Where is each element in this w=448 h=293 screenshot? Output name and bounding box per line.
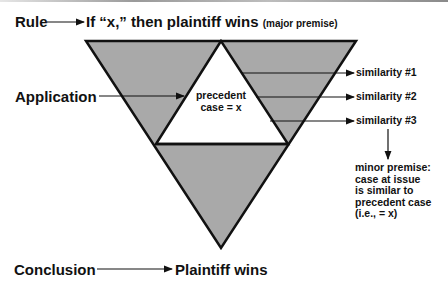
- conclusion-label: Conclusion: [14, 261, 96, 278]
- similarity-1-label: similarity #1: [356, 66, 417, 78]
- similarity-3-label: similarity #3: [356, 114, 417, 126]
- minor-line-1: minor premise:: [355, 162, 447, 174]
- application-label: Application: [15, 88, 97, 105]
- minor-premise-text: minor premise: case at issue is similar …: [355, 162, 447, 220]
- major-premise-note: (major premise): [263, 18, 338, 29]
- precedent-line-2: case = x: [186, 101, 256, 113]
- syllogism-diagram: [0, 0, 448, 293]
- rule-label: Rule: [15, 13, 48, 30]
- minor-line-5: (i.e., = x): [355, 208, 447, 220]
- rule-statement-text: If “x,” then plaintiff wins: [86, 13, 259, 30]
- precedent-line-1: precedent: [186, 89, 256, 101]
- minor-line-3: is similar to: [355, 185, 447, 197]
- rule-statement: If “x,” then plaintiff wins (major premi…: [86, 13, 338, 30]
- conclusion-statement: Plaintiff wins: [175, 261, 268, 278]
- similarity-2-label: similarity #2: [356, 90, 417, 102]
- precedent-case-text: precedent case = x: [186, 89, 256, 113]
